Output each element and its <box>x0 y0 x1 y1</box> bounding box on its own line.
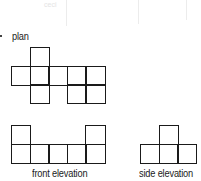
grid-cell <box>30 66 50 86</box>
grid-cell <box>30 47 50 67</box>
grid-cell <box>48 66 68 86</box>
grid-cell <box>140 144 160 164</box>
grid-cell <box>177 144 197 164</box>
grid-cell <box>30 144 50 164</box>
grid-cell <box>11 144 31 164</box>
grid-cell <box>67 66 87 86</box>
grid-cell <box>85 84 105 104</box>
grid-cell <box>48 144 68 164</box>
ghost-line <box>138 0 139 24</box>
grid-cell <box>67 144 87 164</box>
grid-cell <box>85 66 105 86</box>
side-elevation-label: side elevation <box>139 167 193 179</box>
grid-cell <box>30 84 50 104</box>
grid-cell <box>85 125 105 145</box>
grid-cell <box>159 144 179 164</box>
grid-cell <box>67 84 87 104</box>
margin-mark <box>0 35 2 37</box>
grid-cell <box>11 125 31 145</box>
ghost-line <box>186 0 187 20</box>
plan-label: plan <box>12 30 29 42</box>
front-elevation-label: front elevation <box>32 167 87 179</box>
ghost-line <box>66 0 67 26</box>
grid-cell <box>85 144 105 164</box>
grid-cell <box>159 125 179 145</box>
ghost-text: ceci <box>44 1 56 8</box>
grid-cell <box>11 66 31 86</box>
